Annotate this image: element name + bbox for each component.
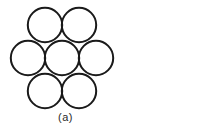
middle-left-circle bbox=[11, 41, 45, 75]
middle-right-circle bbox=[79, 41, 113, 75]
bottom-right-circle bbox=[62, 74, 96, 108]
center-circle bbox=[45, 41, 79, 75]
top-right-circle bbox=[62, 8, 96, 42]
figure-container: (a) bbox=[0, 0, 207, 131]
top-left-circle bbox=[28, 8, 62, 42]
figure-caption-label: (a) bbox=[0, 110, 131, 124]
bottom-left-circle bbox=[28, 74, 62, 108]
